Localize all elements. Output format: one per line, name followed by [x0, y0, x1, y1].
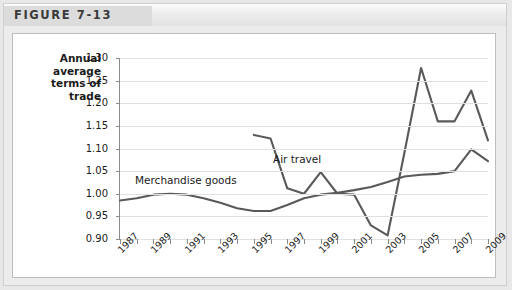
chart-card: Annual average terms of trade Merchandis…: [12, 33, 496, 278]
y-tick-mark: [116, 171, 120, 172]
series-label-merchandise-goods: Merchandise goods: [135, 175, 237, 186]
y-tick-label: 0.90: [74, 234, 108, 244]
series-label-air-travel: Air travel: [273, 154, 321, 165]
y-tick-label: 1.00: [74, 189, 108, 199]
gridline-y: [120, 194, 488, 195]
gridline-y: [120, 58, 488, 59]
y-tick-mark: [116, 216, 120, 217]
y-tick-mark: [116, 58, 120, 59]
gridline-y: [120, 126, 488, 127]
y-tick-mark: [116, 126, 120, 127]
y-tick-mark: [116, 81, 120, 82]
gridline-y: [120, 81, 488, 82]
y-tick-mark: [116, 103, 120, 104]
y-tick-label: 1.10: [74, 144, 108, 154]
y-tick-label: 1.05: [74, 166, 108, 176]
gridline-y: [120, 103, 488, 104]
figure-root: FIGURE 7-13 Annual average terms of trad…: [0, 0, 512, 290]
gridline-y: [120, 149, 488, 150]
figure-title: FIGURE 7-13: [14, 6, 112, 24]
y-tick-label: 0.95: [74, 211, 108, 221]
y-tick-mark: [116, 149, 120, 150]
series-line-air-travel: [254, 68, 488, 235]
y-tick-mark: [116, 194, 120, 195]
gridline-y: [120, 171, 488, 172]
y-tick-label: 1.20: [74, 98, 108, 108]
y-tick-label: 1.30: [74, 53, 108, 63]
gridline-y: [120, 216, 488, 217]
y-tick-label: 1.25: [74, 76, 108, 86]
plot-area: Merchandise goods Air travel 0.900.951.0…: [120, 58, 488, 239]
y-tick-label: 1.15: [74, 121, 108, 131]
